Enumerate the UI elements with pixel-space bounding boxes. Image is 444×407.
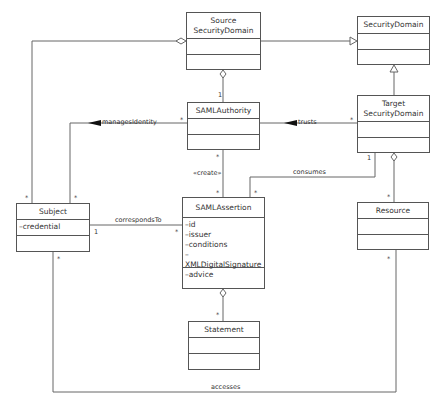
operations-section [358,50,429,64]
multiplicity-subject-source: * [25,194,28,202]
generalization-arrow-horizontal [350,37,357,45]
attributes-section [188,119,259,135]
class-header: Subject [17,204,89,220]
multiplicity-resource-target: * [387,193,390,201]
class-name: Target [382,99,405,109]
class-name: Source [211,16,237,26]
class-header: SAMLAssertion [183,198,264,218]
class-name: SecurityDomain [364,20,424,30]
operations-section [187,55,260,69]
class-header: SecurityDomain [358,17,429,34]
multiplicity-source-authority: 1 [218,91,222,99]
association-label-trusts: trusts [298,118,317,126]
attribute-credential: –credential [19,222,89,232]
attributes-section [358,219,428,235]
attribute-xml-digital-signature: –XMLDigitalSignature [185,250,264,270]
operations-section [17,236,89,251]
class-header: Resource [358,203,428,219]
operations-section [358,235,428,249]
class-name: SecurityDomain [194,26,254,36]
attribute-conditions: –conditions [185,240,264,250]
operations-section [188,135,259,149]
multiplicity-subject-manages: * [74,194,77,202]
multiplicity-statement: * [216,311,219,319]
attributes-section [358,122,429,138]
class-header: Target SecurityDomain [358,96,429,122]
class-name: Resource [376,206,410,216]
class-name: SecurityDomain [364,109,424,119]
aggregation-diamond-source-authority [220,70,226,78]
class-saml-assertion: SAMLAssertion –id –issuer –conditions –X… [182,197,265,289]
association-label-accesses: accesses [211,383,240,391]
direction-arrow-manages-identity [88,120,101,126]
multiplicity-assertion-create: * [216,189,219,197]
class-resource: Resource [357,202,429,250]
class-target-security-domain: Target SecurityDomain [357,95,430,153]
multiplicity-subject-corresponds: 1 [94,228,98,236]
class-subject: Subject –credential [16,203,90,252]
class-header: Statement [189,322,259,338]
association-label-manages-identity: managesIdentity [102,118,157,126]
class-security-domain: SecurityDomain [357,16,430,65]
operations-section [358,138,429,152]
attributes-section: –credential [17,220,89,236]
multiplicity-target-trusts: * [350,116,353,124]
association-label-create: «create» [193,169,222,177]
multiplicity-authority-manages: * [180,116,183,124]
class-name: Statement [204,325,243,335]
direction-arrow-trusts [284,120,297,126]
class-statement: Statement [188,321,260,370]
aggregation-diamond-assertion-statement [220,289,226,297]
multiplicity-target-consumes: 1 [367,154,371,162]
class-name: SAMLAssertion [196,203,252,213]
aggregation-diamond-source-subject [176,38,186,44]
association-label-consumes: consumes [293,168,326,176]
class-source-security-domain: Source SecurityDomain [186,12,261,70]
aggregation-diamond-target-resource [391,153,397,161]
attribute-issuer: –issuer [185,230,264,240]
multiplicity-resource-accesses: * [387,255,390,263]
class-header: SAMLAuthority [188,103,259,119]
attribute-id: –id [185,220,264,230]
class-saml-authority: SAMLAuthority [187,102,260,150]
class-header: Source SecurityDomain [187,13,260,39]
attributes-section [358,34,429,50]
multiplicity-authority-create: * [216,153,219,161]
multiplicity-subject-accesses: * [57,255,60,263]
attributes-section [189,338,259,354]
operations-section [189,354,259,369]
attributes-section: –id –issuer –conditions –XMLDigitalSigna… [183,218,264,268]
association-label-corresponds-to: correspondsTo [115,216,162,224]
class-name: SAMLAuthority [196,106,252,116]
attributes-section [187,39,260,55]
multiplicity-assertion-consumes: * [254,189,257,197]
class-name: Subject [39,207,67,217]
multiplicity-assertion-corresponds: * [175,228,178,236]
generalization-arrow-vertical [390,65,398,72]
